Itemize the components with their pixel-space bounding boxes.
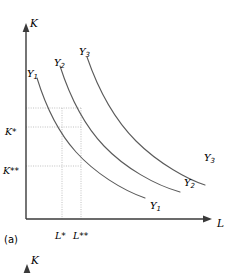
curve-label-y3-right: Y3: [204, 146, 215, 165]
curve-label-y2-left-subscript: 2: [61, 62, 65, 70]
x-axis-arrowhead: [203, 216, 212, 223]
panel-b-y-axis-label: K: [31, 249, 39, 268]
curve-label-y3-right-subscript: 3: [211, 157, 215, 165]
curve-label-y3-left: Y3: [79, 40, 90, 59]
curve-label-y1-right-subscript: 1: [157, 205, 161, 213]
x-axis-tick-lstar: L*: [55, 224, 66, 243]
x-axis-tick-ldoublestar-mark: **: [79, 231, 88, 241]
curve-label-y2-right-subscript: 2: [191, 182, 195, 190]
curve-label-y1-left-subscript: 1: [34, 73, 38, 81]
figure-canvas: [0, 0, 231, 278]
isoquant-curve-y3: [87, 57, 205, 185]
y-axis-tick-kstar-mark: *: [12, 127, 17, 137]
panel-b-y-axis-arrowhead: [24, 264, 31, 273]
curve-label-y1-right: Y1: [150, 194, 161, 213]
y-axis-label: K: [30, 12, 38, 31]
panel-b-axes: [24, 264, 31, 273]
y-axis-tick-kdoublestar-mark: **: [10, 166, 19, 176]
y-axis-arrowhead: [23, 23, 30, 32]
curve-label-y2-left: Y2: [54, 51, 65, 70]
panel-label-a: (a): [4, 228, 18, 247]
y-axis-tick-kdoublestar: K**: [3, 159, 19, 178]
x-axis-label: L: [217, 212, 224, 231]
x-axis-tick-ldoublestar: L**: [73, 224, 88, 243]
panel-a-axes: [23, 23, 212, 222]
isoquant-figure: K L K* K** L* L** Y1 Y2 Y3 Y1 Y2 Y3: [0, 0, 231, 278]
curve-label-y1-left: Y1: [27, 62, 38, 81]
isoquant-curve-y1: [37, 78, 145, 198]
y-axis-tick-kstar: K*: [5, 120, 17, 139]
curve-label-y3-left-subscript: 3: [86, 51, 90, 59]
guide-lines-group: [26, 108, 81, 219]
x-axis-tick-lstar-mark: *: [61, 231, 66, 241]
isoquant-curve-y2: [60, 66, 180, 192]
curve-label-y2-right: Y2: [184, 171, 195, 190]
